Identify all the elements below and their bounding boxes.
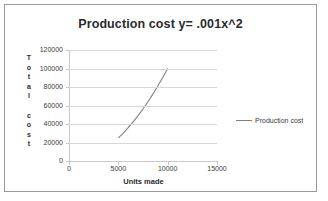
- plot-area: [69, 50, 217, 161]
- legend-label-production-cost: Production cost: [255, 117, 303, 124]
- y-axis-tick-label: 60000: [23, 102, 63, 109]
- x-axis-tick-label: 10000: [148, 165, 188, 172]
- y-axis-tick-label: 20000: [23, 139, 63, 146]
- y-axis-tick: [66, 50, 69, 51]
- x-axis-tick-label: 0: [49, 165, 89, 172]
- gridline-horizontal: [69, 124, 217, 125]
- y-axis-tick: [66, 87, 69, 88]
- y-axis-title-char: T: [23, 53, 35, 63]
- x-axis-tick-label: 5000: [98, 165, 138, 172]
- y-axis-tick-label: 0: [23, 157, 63, 164]
- gridline-horizontal: [69, 69, 217, 70]
- y-axis-tick-label: 120000: [23, 46, 63, 53]
- y-axis-tick-label: 100000: [23, 65, 63, 72]
- legend-line-swatch: [236, 120, 252, 121]
- y-axis-title-char: c: [23, 111, 35, 121]
- x-axis-tick-label: 15000: [197, 165, 237, 172]
- x-axis-title: Units made: [69, 177, 218, 186]
- gridline-horizontal: [69, 50, 217, 51]
- y-axis-title-char: l: [23, 91, 35, 101]
- gridline-horizontal: [69, 143, 217, 144]
- y-axis-tick-label: 40000: [23, 120, 63, 127]
- x-axis-line: [69, 161, 218, 162]
- chart-container: Production cost y= .001x^2 Totalcost Uni…: [4, 4, 317, 192]
- y-axis-tick: [66, 106, 69, 107]
- y-axis-tick: [66, 143, 69, 144]
- chart-legend: Production cost: [236, 117, 303, 124]
- y-axis-tick-label: 80000: [23, 83, 63, 90]
- y-axis-tick: [66, 124, 69, 125]
- gridline-horizontal: [69, 87, 217, 88]
- chart-title: Production cost y= .001x^2: [5, 17, 316, 31]
- y-axis-tick: [66, 69, 69, 70]
- gridline-horizontal: [69, 106, 217, 107]
- y-axis-title-char: t: [23, 72, 35, 82]
